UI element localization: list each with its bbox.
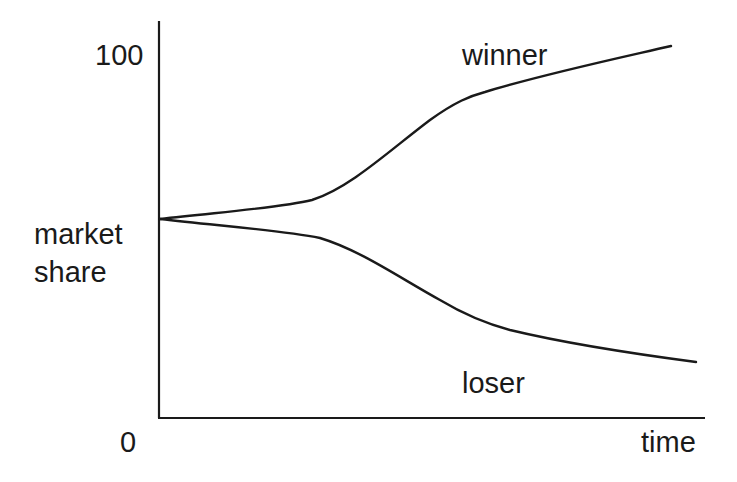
- winner-series-label: winner: [462, 41, 547, 70]
- y-axis-label-line1: market: [34, 220, 123, 249]
- y-tick-max: 100: [95, 41, 143, 70]
- x-axis-label: time: [641, 428, 696, 457]
- winner-line: [160, 46, 671, 219]
- loser-line: [160, 219, 696, 362]
- y-tick-min: 0: [120, 428, 136, 457]
- y-axis-label-line2: share: [34, 258, 107, 287]
- market-share-chart: 100 0 market share time winner loser: [0, 0, 737, 482]
- loser-series-label: loser: [462, 369, 525, 398]
